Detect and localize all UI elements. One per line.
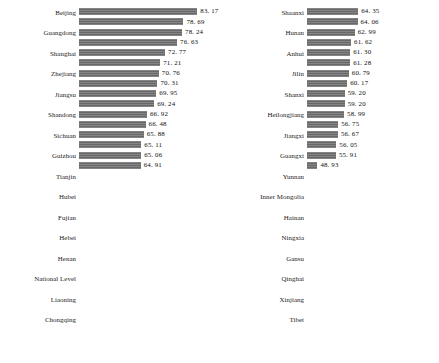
category-label: Henan	[0, 255, 76, 262]
bar-value-label: 66. 92	[150, 110, 168, 118]
chart-panel-left: BeijingGuangdongShanghaiZhejiangJiangsuS…	[0, 0, 230, 363]
category-label: Chongqing	[0, 316, 76, 323]
category-label: Heilongjiang	[228, 111, 304, 118]
category-label: Shanxi	[228, 91, 304, 98]
category-label: Beijing	[0, 9, 76, 16]
bar-value-label: 56. 05	[339, 141, 357, 149]
plot-area-left: 83. 1778. 6978. 2476. 6372. 7771. 2170. …	[79, 0, 230, 363]
bar-value-label: 56. 75	[341, 120, 359, 128]
bar-value-label: 65. 11	[144, 141, 162, 149]
bar-value-label: 56. 67	[341, 130, 359, 138]
bar-value-label: 48. 93	[320, 161, 338, 169]
bar-value-label: 64. 06	[361, 18, 379, 26]
bar	[79, 18, 183, 25]
category-label: Liaoning	[0, 296, 76, 303]
category-label: Zhejiang	[0, 70, 76, 77]
bar-value-label: 64. 91	[144, 161, 162, 169]
bar-value-label: 64. 35	[361, 7, 379, 15]
bar-value-label: 60. 79	[352, 69, 370, 77]
category-label: Jilin	[228, 70, 304, 77]
bar-value-label: 70. 31	[160, 79, 178, 87]
bar	[307, 18, 358, 25]
bar	[79, 8, 197, 15]
bar	[79, 49, 165, 56]
bar	[79, 162, 141, 169]
category-label: Fujian	[0, 214, 76, 221]
bar-value-label: 66. 48	[149, 120, 167, 128]
category-label: Hebei	[0, 234, 76, 241]
bar	[79, 111, 147, 118]
category-label: National Level	[0, 275, 76, 282]
bar-value-label: 61. 28	[353, 59, 371, 67]
bar	[307, 39, 351, 46]
category-label: Tibet	[228, 316, 304, 323]
bar-value-label: 62. 99	[358, 28, 376, 36]
bar	[79, 100, 154, 107]
bar-value-label: 69. 24	[157, 100, 175, 108]
chart-panel-right: ShaanxiHunanAnhuiJilinShanxiHeilongjiang…	[228, 0, 439, 363]
bar-value-label: 61. 30	[353, 48, 371, 56]
bar	[79, 70, 159, 77]
category-label: Shandong	[0, 111, 76, 118]
category-label: Gansu	[228, 255, 304, 262]
category-label: Inner Mongolia	[228, 193, 304, 200]
bar-value-label: 61. 62	[354, 38, 372, 46]
category-label: Tianjin	[0, 173, 76, 180]
plot-area-right: 64. 3564. 0662. 9961. 6261. 3061. 2860. …	[307, 0, 439, 363]
bar	[79, 59, 160, 66]
category-label: Ningxia	[228, 234, 304, 241]
bar	[307, 131, 338, 138]
bar	[79, 131, 144, 138]
bar	[307, 152, 336, 159]
bar-value-label: 70. 76	[162, 69, 180, 77]
category-axis-right: ShaanxiHunanAnhuiJilinShanxiHeilongjiang…	[228, 0, 304, 363]
category-axis-left: BeijingGuangdongShanghaiZhejiangJiangsuS…	[0, 0, 76, 363]
category-label: Qinghai	[228, 275, 304, 282]
bar	[307, 70, 349, 77]
bar	[79, 152, 141, 159]
bar-value-label: 58. 99	[347, 110, 365, 118]
category-label: Hubei	[0, 193, 76, 200]
bar	[307, 80, 347, 87]
bar-value-label: 65. 06	[144, 151, 162, 159]
category-label: Guizhou	[0, 152, 76, 159]
category-label: Shanghai	[0, 50, 76, 57]
bar-value-label: 59. 20	[348, 100, 366, 108]
bar	[79, 39, 177, 46]
bar	[79, 80, 157, 87]
bar-value-label: 69. 95	[159, 89, 177, 97]
bar	[79, 141, 141, 148]
dual-bar-chart-figure: BeijingGuangdongShanghaiZhejiangJiangsuS…	[0, 0, 439, 363]
category-label: Guangxi	[228, 152, 304, 159]
bar	[79, 29, 182, 36]
bar	[307, 100, 345, 107]
category-label: Jiangsu	[0, 91, 76, 98]
bar-value-label: 78. 69	[186, 18, 204, 26]
bar	[307, 59, 350, 66]
bar-value-label: 59. 20	[348, 89, 366, 97]
category-label: Hunan	[228, 29, 304, 36]
bar-value-label: 60. 17	[350, 79, 368, 87]
category-label: Shaanxi	[228, 9, 304, 16]
bar-value-label: 76. 63	[180, 38, 198, 46]
bar	[307, 29, 355, 36]
bar	[307, 49, 350, 56]
bar	[79, 121, 146, 128]
bar	[307, 90, 345, 97]
bar	[307, 141, 336, 148]
bar-value-label: 78. 24	[185, 28, 203, 36]
category-label: Xinjiang	[228, 296, 304, 303]
bar	[307, 121, 338, 128]
category-label: Jiangxi	[228, 132, 304, 139]
bar-value-label: 71. 21	[163, 59, 181, 67]
bar	[307, 162, 317, 169]
category-label: Guangdong	[0, 29, 76, 36]
bar	[307, 111, 344, 118]
category-label: Sichuan	[0, 132, 76, 139]
category-label: Anhui	[228, 50, 304, 57]
bar-value-label: 72. 77	[168, 48, 186, 56]
bar-value-label: 83. 17	[200, 7, 218, 15]
bar	[79, 90, 156, 97]
bar	[307, 8, 358, 15]
bar-value-label: 65. 88	[147, 130, 165, 138]
